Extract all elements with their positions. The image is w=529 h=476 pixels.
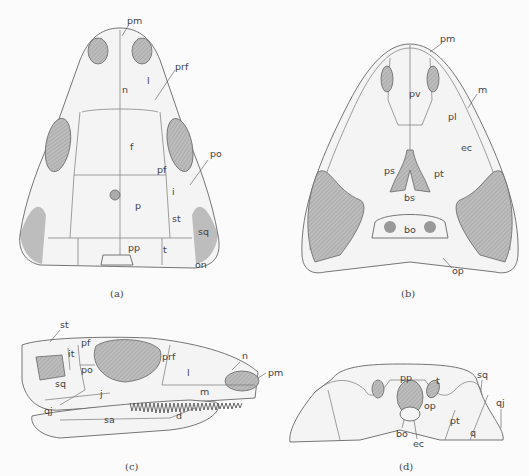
label-c-pf: pf bbox=[81, 337, 91, 348]
label-a-prf: prf bbox=[175, 61, 189, 72]
label-b-bo: bo bbox=[404, 224, 416, 235]
label-d-ec: ec bbox=[413, 438, 424, 449]
label-c-pm: pm bbox=[268, 367, 283, 378]
label-d-bo: bo bbox=[396, 428, 408, 439]
panel-c-lateral-skull: st it pf po prf n pm sq j l m qj sa d (c… bbox=[22, 319, 283, 472]
occipital-condyle bbox=[101, 255, 133, 265]
label-a-pf: pf bbox=[157, 164, 167, 175]
label-c-sa: sa bbox=[104, 414, 115, 425]
label-b-pv: pv bbox=[409, 88, 421, 99]
lateral-naris bbox=[225, 371, 259, 391]
label-b-ec: ec bbox=[461, 142, 472, 153]
temporal-notch bbox=[36, 355, 65, 380]
figure-canvas: pm prf n l f po pf i p st sq pp t on (a)… bbox=[0, 0, 529, 476]
caption-d: (d) bbox=[399, 461, 413, 472]
panel-b-palatal-skull: pm m pv pl ec ps pt bs bo op (b) bbox=[302, 33, 518, 299]
label-b-pm: pm bbox=[440, 33, 455, 44]
label-c-st: st bbox=[60, 319, 69, 330]
label-c-n: n bbox=[242, 350, 248, 361]
label-b-bs: bs bbox=[404, 192, 415, 203]
right-choana bbox=[427, 66, 439, 92]
label-d-t: t bbox=[436, 375, 440, 386]
label-c-j: j bbox=[99, 388, 103, 399]
label-c-po: po bbox=[81, 364, 93, 375]
label-d-sq: sq bbox=[477, 369, 488, 380]
label-c-prf: prf bbox=[162, 351, 176, 362]
leader-c-pm bbox=[258, 373, 266, 378]
label-a-st: st bbox=[172, 213, 181, 224]
label-d-q: q bbox=[470, 427, 476, 438]
label-c-m: m bbox=[200, 386, 209, 397]
label-c-qj: qj bbox=[44, 405, 53, 416]
label-c-sq: sq bbox=[55, 378, 66, 389]
caption-b: (b) bbox=[401, 288, 415, 299]
left-naris bbox=[88, 38, 108, 64]
right-otic-mass bbox=[424, 221, 436, 233]
label-d-pt: pt bbox=[450, 415, 460, 426]
label-b-op: op bbox=[452, 265, 464, 276]
panel-a-dorsal-skull: pm prf n l f po pf i p st sq pp t on (a) bbox=[20, 15, 222, 299]
panel-d-occipital-skull: pp t sq op qj pt bo ec q (d) bbox=[290, 364, 505, 472]
label-a-n: n bbox=[122, 84, 128, 95]
label-d-qj: qj bbox=[496, 397, 505, 408]
label-b-ps: ps bbox=[384, 165, 395, 176]
label-b-m: m bbox=[478, 84, 487, 95]
label-a-pp: pp bbox=[128, 242, 140, 253]
label-a-po: po bbox=[210, 148, 222, 159]
label-c-it: it bbox=[68, 348, 75, 359]
label-b-pt: pt bbox=[434, 168, 444, 179]
label-c-l: l bbox=[187, 367, 190, 378]
occipital-condyle-d bbox=[400, 407, 420, 421]
pineal-foramen bbox=[110, 190, 120, 200]
caption-a: (a) bbox=[110, 288, 124, 299]
label-a-l: l bbox=[147, 75, 150, 86]
left-choana bbox=[381, 66, 393, 92]
leader-b-pm bbox=[430, 44, 441, 52]
label-a-t: t bbox=[163, 244, 167, 255]
label-a-p: p bbox=[135, 200, 141, 211]
label-c-d: d bbox=[176, 410, 182, 421]
label-b-pl: pl bbox=[448, 111, 457, 122]
label-a-on: on bbox=[195, 259, 207, 270]
right-naris bbox=[132, 38, 152, 64]
leader-d-sq bbox=[481, 380, 482, 390]
label-a-sq: sq bbox=[198, 226, 209, 237]
left-posttemporal-fossa bbox=[372, 380, 384, 398]
label-a-i: i bbox=[172, 186, 175, 197]
label-d-pp: pp bbox=[400, 372, 412, 383]
label-d-op: op bbox=[424, 400, 436, 411]
caption-c: (c) bbox=[125, 461, 139, 472]
label-a-pm: pm bbox=[127, 15, 142, 26]
left-otic-mass bbox=[384, 221, 396, 233]
